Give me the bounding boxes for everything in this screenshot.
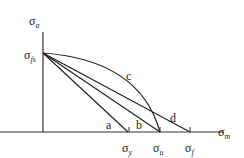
fatigue-diagram: σa σm σfs σy σu σf a b c d — [0, 0, 244, 158]
y-intercept-label: σfs — [24, 48, 36, 64]
label-d: d — [170, 111, 176, 125]
y-axis-label: σa — [29, 14, 39, 30]
line-d — [43, 53, 190, 132]
label-a: a — [106, 118, 112, 132]
x-intercept-su: σu — [153, 141, 163, 157]
line-b — [43, 53, 160, 132]
label-c: c — [126, 69, 131, 83]
x-axis-label: σm — [218, 125, 230, 141]
x-intercept-sf: σf — [185, 141, 195, 157]
label-b: b — [136, 118, 142, 132]
x-intercept-sy: σy — [122, 141, 132, 157]
